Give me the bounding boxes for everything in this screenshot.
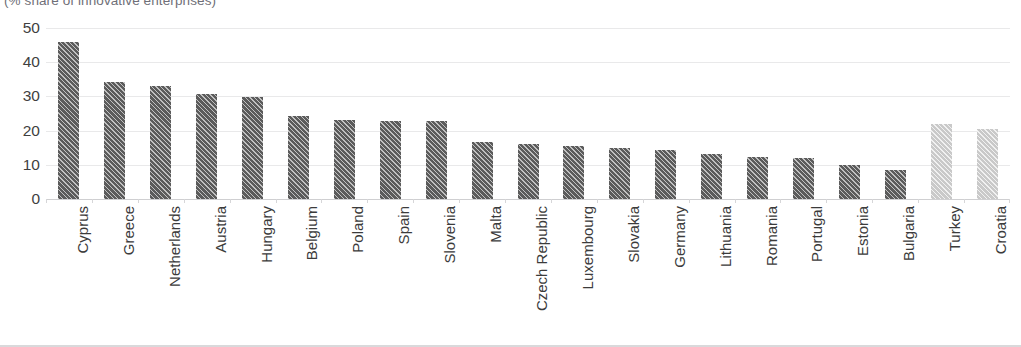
x-tick-2 — [138, 199, 139, 203]
x-label-malta: Malta — [488, 206, 503, 243]
x-label-czech-republic: Czech Republic — [534, 206, 549, 311]
bar-portugal — [793, 158, 814, 199]
x-label-austria: Austria — [213, 206, 228, 253]
x-label-poland: Poland — [350, 206, 365, 253]
x-tick-6 — [321, 199, 322, 203]
bar-chart: (% share of innovative enterprises) 0102… — [0, 0, 1021, 347]
x-tick-0 — [46, 199, 47, 203]
y-tick-label-50: 50 — [4, 20, 40, 36]
bar-bulgaria — [885, 170, 906, 199]
x-label-lithuania: Lithuania — [718, 206, 733, 267]
x-tick-13 — [643, 199, 644, 203]
x-label-spain: Spain — [396, 206, 411, 244]
x-tick-3 — [184, 199, 185, 203]
x-tick-12 — [597, 199, 598, 203]
x-label-croatia: Croatia — [993, 206, 1008, 254]
x-tick-16 — [780, 199, 781, 203]
bar-croatia — [977, 129, 998, 199]
x-tick-19 — [918, 199, 919, 203]
y-tick-label-30: 30 — [4, 89, 40, 105]
x-tick-15 — [735, 199, 736, 203]
x-label-germany: Germany — [672, 206, 687, 268]
x-label-portugal: Portugal — [809, 206, 824, 262]
x-tick-10 — [505, 199, 506, 203]
x-axis-labels: CyprusGreeceNetherlandsAustriaHungaryBel… — [46, 206, 1010, 341]
y-axis: 01020304050 — [0, 28, 40, 199]
bar-belgium — [288, 116, 309, 199]
x-tick-end — [1009, 199, 1010, 203]
x-label-bulgaria: Bulgaria — [901, 206, 916, 261]
x-tick-5 — [276, 199, 277, 203]
x-label-slovenia: Slovenia — [442, 206, 457, 264]
bar-romania — [747, 157, 768, 199]
x-tick-9 — [459, 199, 460, 203]
bars-container — [46, 28, 1010, 199]
x-label-turkey: Turkey — [947, 206, 962, 251]
bar-malta — [472, 142, 493, 199]
x-label-hungary: Hungary — [259, 206, 274, 263]
x-tick-1 — [92, 199, 93, 203]
bar-greece — [104, 82, 125, 199]
x-label-cyprus: Cyprus — [75, 206, 90, 254]
x-tick-4 — [230, 199, 231, 203]
x-tick-8 — [413, 199, 414, 203]
x-tick-18 — [872, 199, 873, 203]
x-label-netherlands: Netherlands — [167, 206, 182, 287]
bar-slovenia — [426, 121, 447, 199]
x-tick-20 — [964, 199, 965, 203]
bar-slovakia — [609, 148, 630, 199]
chart-subtitle: (% share of innovative enterprises) — [4, 0, 216, 8]
y-tick-label-40: 40 — [4, 54, 40, 70]
y-tick-label-20: 20 — [4, 123, 40, 139]
y-tick-label-10: 10 — [4, 157, 40, 173]
x-axis-ticks — [46, 199, 1010, 204]
x-tick-14 — [689, 199, 690, 203]
bar-lithuania — [701, 154, 722, 199]
x-label-greece: Greece — [121, 206, 136, 255]
x-label-luxembourg: Luxembourg — [580, 206, 595, 289]
x-label-belgium: Belgium — [304, 206, 319, 260]
bar-poland — [334, 120, 355, 199]
x-label-estonia: Estonia — [855, 206, 870, 256]
x-tick-17 — [826, 199, 827, 203]
bar-hungary — [242, 97, 263, 199]
y-tick-label-0: 0 — [4, 191, 40, 207]
bar-cyprus — [58, 42, 79, 199]
x-tick-7 — [367, 199, 368, 203]
x-tick-11 — [551, 199, 552, 203]
x-label-romania: Romania — [764, 206, 779, 266]
bar-netherlands — [150, 86, 171, 199]
bar-spain — [380, 121, 401, 199]
bar-austria — [196, 94, 217, 199]
bar-germany — [655, 150, 676, 199]
bar-luxembourg — [563, 146, 584, 199]
bar-czech-republic — [518, 144, 539, 199]
bar-turkey — [931, 124, 952, 199]
x-label-slovakia: Slovakia — [626, 206, 641, 263]
bar-estonia — [839, 165, 860, 199]
